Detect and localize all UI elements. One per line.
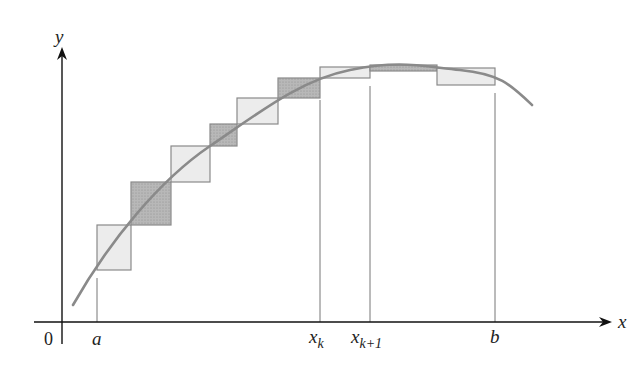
rectangle-5 [237,98,278,124]
b-label: b [490,326,500,347]
riemann-sum-diagram: y x 0 a xk xk+1 b [0,0,643,370]
origin-label: 0 [44,329,53,349]
xk1-sub: k+1 [359,336,382,351]
rectangle-1 [97,225,131,270]
xk1-label: xk+1 [350,326,382,351]
a-label: a [92,328,102,349]
x-axis-label: x [617,311,627,332]
xk-sub: k [317,336,324,351]
rectangle-2 [131,182,171,225]
xk-label: xk [308,326,324,351]
rectangles [97,65,495,270]
y-axis-label: y [53,26,64,47]
axes [34,47,612,344]
